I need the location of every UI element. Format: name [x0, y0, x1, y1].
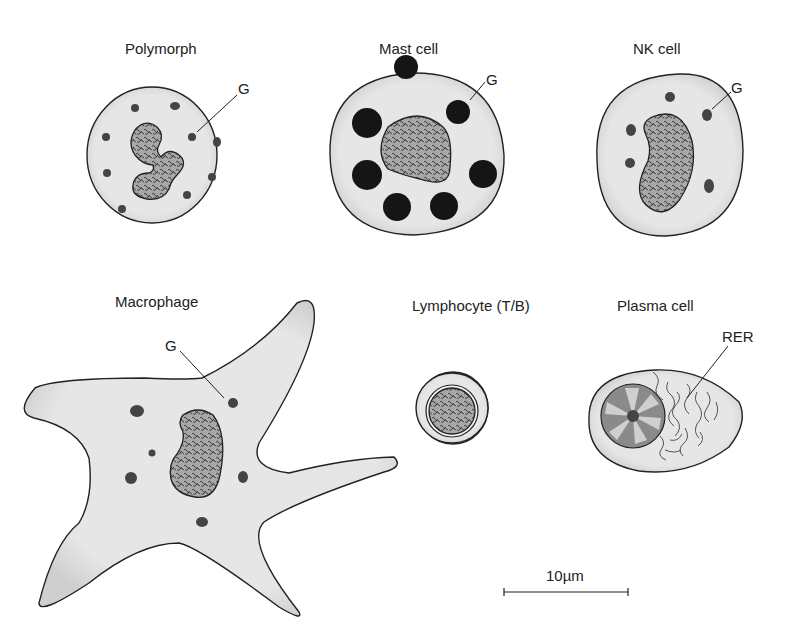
rer-annotation: RER	[722, 328, 754, 345]
macrophage-cell: Macrophage G	[24, 293, 397, 616]
scale-bar-label: 10µm	[546, 567, 584, 584]
granule-annotation-g: G	[486, 71, 498, 88]
mast-cell-label: Mast cell	[379, 40, 438, 57]
polymorph-label: Polymorph	[125, 40, 197, 57]
granule-annotation-g: G	[238, 80, 250, 97]
lymphocyte-label: Lymphocyte (T/B)	[412, 297, 530, 314]
granule-annotation-g: G	[165, 337, 177, 354]
nk-cell: NK cell G	[597, 40, 743, 236]
mast-cell: Mast cell G	[330, 40, 504, 235]
lymphocyte-cell: Lymphocyte (T/B)	[412, 297, 530, 444]
macrophage-label: Macrophage	[115, 293, 198, 310]
granule-annotation-g: G	[731, 79, 743, 96]
plasma-cell-label: Plasma cell	[617, 297, 694, 314]
nk-cell-label: NK cell	[633, 40, 681, 57]
plasma-cell: Plasma cell RER	[589, 297, 754, 472]
round-nucleus	[429, 388, 475, 434]
scale-bar: 10µm	[504, 567, 628, 596]
polymorph-cell: Polymorph G	[87, 40, 250, 223]
immune-cells-diagram: Polymorph G Mast cell G NK cell	[0, 0, 795, 642]
